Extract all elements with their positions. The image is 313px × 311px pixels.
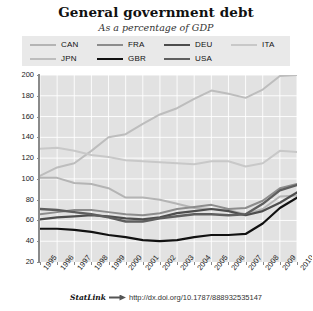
x-tick-mark-1996 [57,262,58,265]
legend-item-fra[interactable]: FRA [89,37,156,52]
legend-swatch-usa [164,58,190,60]
x-tick-mark-1997 [74,262,75,265]
x-tick-mark-1998 [91,262,92,265]
x-tick-mark-2003 [177,262,178,265]
legend-label-fra: FRA [128,40,145,49]
y-tick-140: 140 [8,133,34,141]
chart-legend: CAN FRA DEU ITA JPN GBR [22,36,290,66]
y-tick-180: 180 [8,92,34,100]
legend-swatch-jpn [30,58,56,60]
x-tick-mark-2009 [280,262,281,265]
page-title: General government debt [0,4,312,20]
y-tick-100: 100 [8,175,34,183]
x-tick-mark-2004 [194,262,195,265]
legend-swatch-ita [231,44,257,46]
legend-label-can: CAN [61,40,79,49]
x-tick-2010: 2010 [299,254,313,272]
x-tick-mark-2002 [160,262,161,265]
x-tick-mark-2000 [126,262,127,265]
y-tick-200: 200 [8,71,34,79]
legend-label-jpn: JPN [61,54,77,63]
series-line-gbr [40,198,297,242]
x-tick-mark-2010 [297,262,298,265]
legend-swatch-can [30,44,56,46]
x-tick-mark-2001 [143,262,144,265]
legend-item-jpn[interactable]: JPN [22,51,89,66]
legend-item-can[interactable]: CAN [22,37,89,52]
statlink-label: StatLink [70,293,106,302]
x-tick-mark-2005 [211,262,212,265]
legend-label-ita: ITA [262,40,274,49]
y-tick-160: 160 [8,113,34,121]
legend-item-deu[interactable]: DEU [156,37,223,52]
x-tick-mark-1999 [109,262,110,265]
legend-item-empty [223,51,290,66]
legend-swatch-deu [164,44,190,46]
series-line-jpn [40,75,297,176]
plot-area [40,75,297,262]
legend-item-gbr[interactable]: GBR [89,51,156,66]
legend-label-gbr: GBR [128,54,146,63]
legend-swatch-gbr [97,58,123,60]
legend-swatch-fra [97,44,123,46]
chart-figure: General government debt As a percentage … [0,0,312,311]
series-line-can [40,178,297,214]
y-tick-120: 120 [8,154,34,162]
legend-label-deu: DEU [195,40,213,49]
y-tick-40: 40 [8,237,34,245]
legend-label-usa: USA [195,54,212,63]
legend-item-ita[interactable]: ITA [223,37,290,52]
plot-lines [40,75,297,262]
x-tick-mark-1995 [40,262,41,265]
legend-row-2: JPN GBR USA [22,51,290,66]
x-tick-mark-2006 [228,262,229,265]
chart-subtitle: As a percentage of GDP [0,22,312,33]
series-line-ita [40,148,297,167]
y-tick-20: 20 [8,258,34,266]
y-tick-80: 80 [8,196,34,204]
x-tick-mark-2007 [246,262,247,265]
statlink-url[interactable]: http://dx.doi.org/10.1787/888932535147 [129,293,262,302]
legend-item-usa[interactable]: USA [156,51,223,66]
legend-row-1: CAN FRA DEU ITA [22,37,290,52]
x-tick-mark-2008 [263,262,264,265]
statlink-footer[interactable]: StatLink http://dx.doi.org/10.1787/88893… [70,293,262,302]
y-tick-60: 60 [8,216,34,224]
arrow-right-icon [109,295,126,301]
